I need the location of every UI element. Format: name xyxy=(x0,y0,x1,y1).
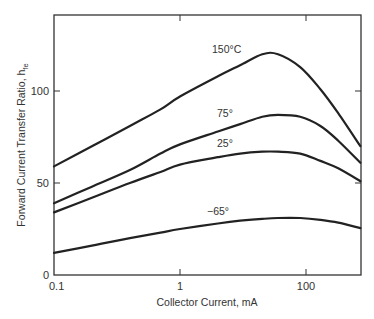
curve-150c xyxy=(54,53,360,167)
curve--65 xyxy=(54,218,360,253)
curve-label: 25° xyxy=(217,137,233,149)
y-tick-label: 100 xyxy=(31,85,49,97)
curve-label: −65° xyxy=(207,205,229,217)
x-axis-title: Collector Current, mA xyxy=(157,296,258,308)
y-tick-label: 50 xyxy=(37,177,49,189)
x-tick-label: 0.1 xyxy=(49,280,64,292)
y-axis-title-main: Forward Current Transfer Ratio, h xyxy=(15,69,27,226)
curve-label: 75° xyxy=(217,107,233,119)
x-tick-label: 100 xyxy=(297,280,315,292)
curves xyxy=(54,53,360,253)
y-axis-title-subscript: fe xyxy=(21,63,30,69)
hfe-vs-collector-current-chart: 0.11100050100 150°C75°25°−65° Collector … xyxy=(0,0,374,319)
y-axis-title: Forward Current Transfer Ratio, hfe xyxy=(15,63,30,226)
x-tick-label: 1 xyxy=(177,280,183,292)
curve-label: 150°C xyxy=(212,43,242,55)
y-tick-label: 0 xyxy=(43,269,49,281)
plot-frame xyxy=(54,15,361,275)
curve-25 xyxy=(54,151,360,212)
plot-border xyxy=(54,15,361,275)
